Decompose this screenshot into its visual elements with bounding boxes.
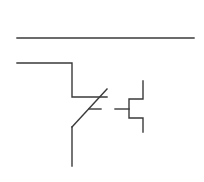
contact-blade (72, 89, 107, 127)
schematic-canvas (0, 0, 204, 182)
input-wire (17, 63, 107, 97)
actuator-body (129, 81, 143, 132)
